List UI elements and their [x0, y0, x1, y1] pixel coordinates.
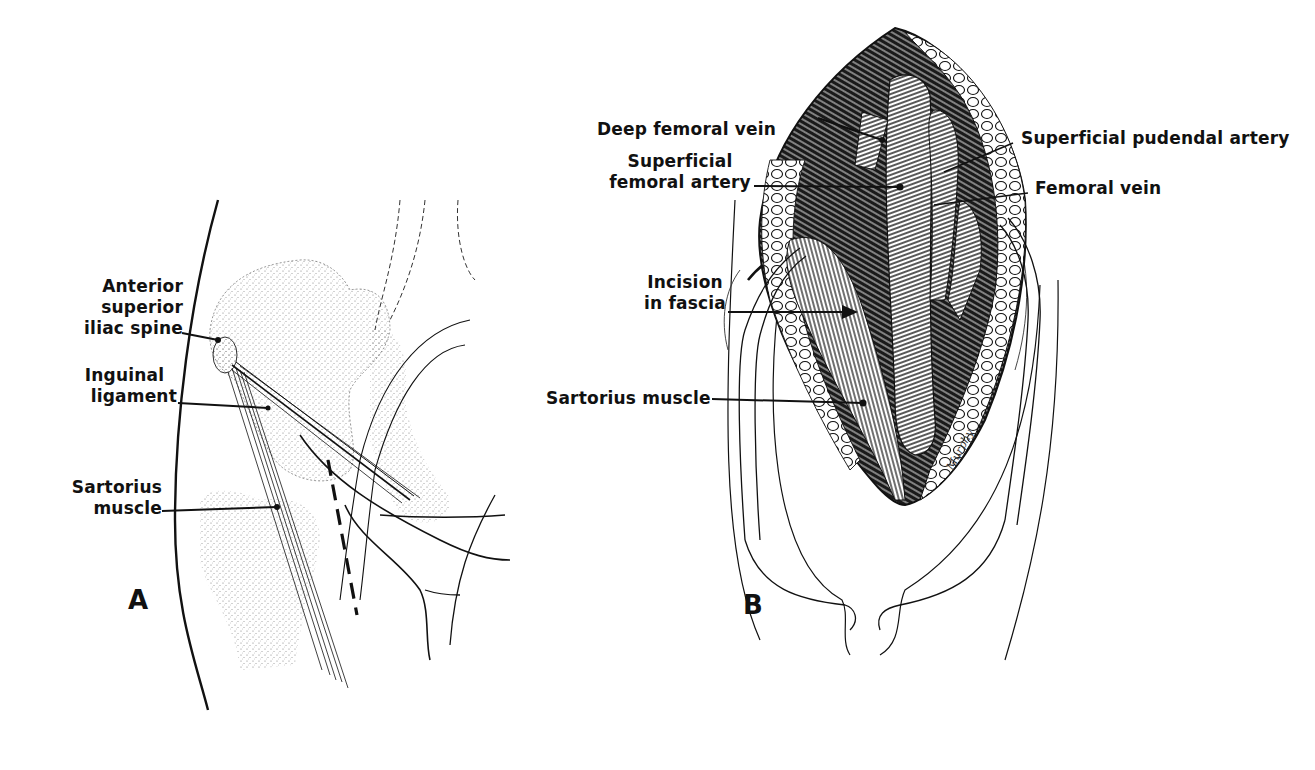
label-line: muscle [62, 498, 162, 519]
label-line: Anterior [73, 276, 183, 297]
panel-letter-a: A [128, 585, 148, 615]
anatomical-illustration [0, 0, 1315, 770]
label-line: Incision [640, 272, 730, 293]
label-line: Superficial [605, 151, 755, 172]
label-sartorius-muscle-b: Sartorius muscle [546, 388, 711, 409]
label-incision-in-fascia: Incision in fascia [640, 272, 730, 314]
label-line: in fascia [640, 293, 730, 314]
label-deep-femoral-vein: Deep femoral vein [597, 119, 776, 140]
label-anterior-superior-iliac-spine: Anterior superior iliac spine [73, 276, 183, 339]
label-superficial-femoral-artery: Superficial femoral artery [605, 151, 755, 193]
label-sartorius-muscle-a: Sartorius muscle [62, 477, 162, 519]
label-line: Sartorius [62, 477, 162, 498]
label-line: iliac spine [73, 318, 183, 339]
panel-a-drawing [162, 200, 510, 710]
panel-letter-b: B [743, 590, 763, 620]
label-line: Inguinal [72, 365, 177, 386]
label-line: ligament [72, 386, 177, 407]
label-superficial-pudendal-artery: Superficial pudendal artery [1021, 128, 1290, 149]
label-line: femoral artery [605, 172, 755, 193]
label-line: superior [73, 297, 183, 318]
label-inguinal-ligament: Inguinal ligament [72, 365, 177, 407]
label-femoral-vein: Femoral vein [1035, 178, 1161, 199]
